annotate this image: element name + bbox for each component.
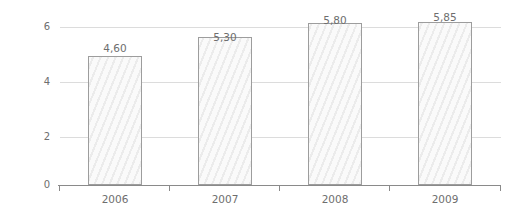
bar-2008[interactable]: [308, 23, 362, 185]
x-tick-3: [389, 186, 390, 191]
value-label-2006: 4,60: [87, 42, 143, 54]
y-tick-label-0: 0: [34, 180, 50, 190]
x-tick-1: [169, 186, 170, 191]
bar-2006[interactable]: [88, 56, 142, 185]
x-label-2008: 2008: [307, 193, 363, 205]
y-tick-label-2: 2: [34, 132, 50, 142]
bar-chart: Umsatz in Mrd. Euro 6 4 2 0 4,60 5,30 5,…: [0, 0, 514, 215]
x-tick-end: [500, 186, 501, 191]
value-label-2009: 5,85: [417, 11, 473, 23]
y-tick-label-4: 4: [34, 77, 50, 87]
x-label-2006: 2006: [87, 193, 143, 205]
value-label-2008: 5,80: [307, 14, 363, 26]
chart-title: [0, 0, 514, 6]
bar-2007[interactable]: [198, 37, 252, 185]
bar-2009[interactable]: [418, 22, 472, 185]
x-label-2009: 2009: [417, 193, 473, 205]
y-tick-label-6: 6: [34, 22, 50, 32]
x-label-2007: 2007: [197, 193, 253, 205]
value-label-2007: 5,30: [197, 31, 253, 43]
x-tick-2: [279, 186, 280, 191]
x-tick-start: [59, 186, 60, 191]
y-axis-ticks: 6 4 2 0: [28, 0, 50, 215]
